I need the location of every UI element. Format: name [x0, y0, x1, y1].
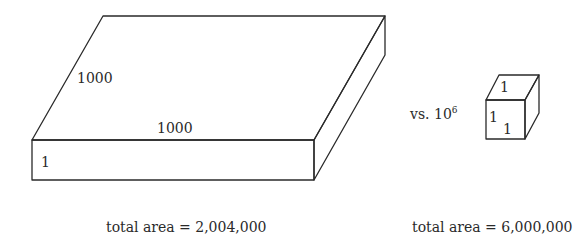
slab-total-area: total area = 2,004,000	[106, 220, 267, 234]
comparison-text: vs. 106	[410, 106, 458, 121]
cube-total-area: total area = 6,000,000	[412, 220, 573, 234]
exponent: 6	[452, 105, 458, 115]
slab-front-face	[32, 140, 314, 180]
slab-width-label: 1000	[157, 121, 193, 135]
slab-height-label: 1	[41, 155, 50, 169]
cube-left-label: 1	[489, 110, 498, 124]
cube-right-face	[525, 75, 539, 139]
vs-text: vs. 10	[410, 106, 452, 122]
slab-right-face	[314, 16, 385, 180]
cube-top-label: 1	[500, 80, 509, 94]
diagram-canvas	[0, 0, 586, 247]
slab-depth-label: 1000	[77, 71, 113, 85]
cube-front-label: 1	[503, 122, 512, 136]
cube-top-face	[486, 75, 539, 100]
